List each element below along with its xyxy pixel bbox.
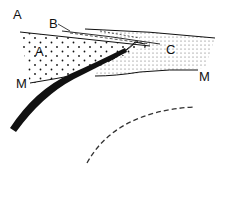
label-m-right: M	[199, 69, 210, 84]
label-a-block: A	[35, 44, 44, 59]
cross-section-diagram: A B A C M M	[0, 0, 228, 209]
dashed-curve	[87, 107, 193, 163]
label-c: C	[166, 42, 175, 57]
label-m-left: M	[16, 76, 27, 91]
label-b: B	[49, 16, 58, 31]
label-b-leader	[58, 24, 70, 31]
label-a-top: A	[13, 7, 22, 22]
